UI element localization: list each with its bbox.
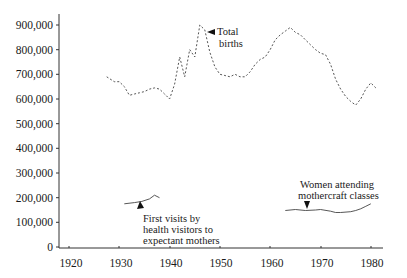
x-tick-label: 1950 [210,257,233,269]
annotation-mothercraft: mothercraft classes [298,190,379,201]
line-chart: 0 100,000 200,000 300,000 400,000 500,00… [0,0,407,278]
x-tick-label: 1940 [160,257,183,269]
annotation-first-visits: First visits by [143,213,201,224]
y-tick-label: 0 [47,241,53,253]
y-axis-labels: 0 100,000 200,000 300,000 400,000 500,00… [16,19,54,253]
annotation-mothercraft: Women attending [300,179,375,190]
y-tick-label: 900,000 [16,19,54,32]
y-tick-label: 200,000 [16,192,54,205]
x-tick-label: 1920 [60,257,83,269]
annotation-total-births: births [219,38,243,49]
series-mothercraft-classes [285,204,371,213]
annotation-first-visits: expectant mothers [143,235,220,246]
y-tick-label: 700,000 [16,68,54,81]
x-tick-label: 1960 [261,257,284,269]
y-tick-label: 400,000 [16,142,54,155]
series-first-visits [124,195,159,204]
arrow-icon [207,29,215,35]
x-tick-label: 1930 [110,257,133,269]
annotation-first-visits: health visitors to [143,224,213,235]
series-total-births [107,25,376,105]
y-tick-label: 600,000 [16,93,54,106]
annotation-total-births: Total [217,26,239,37]
y-tick-label: 800,000 [16,44,54,57]
x-axis-labels: 1920 1930 1940 1950 1960 1970 1980 [60,257,384,269]
y-tick-label: 500,000 [16,118,54,131]
x-tick-label: 1970 [311,257,334,269]
y-tick-label: 300,000 [16,167,54,180]
x-tick-label: 1980 [361,257,384,269]
y-tick-label: 100,000 [16,216,54,229]
arrow-icon [304,201,310,209]
